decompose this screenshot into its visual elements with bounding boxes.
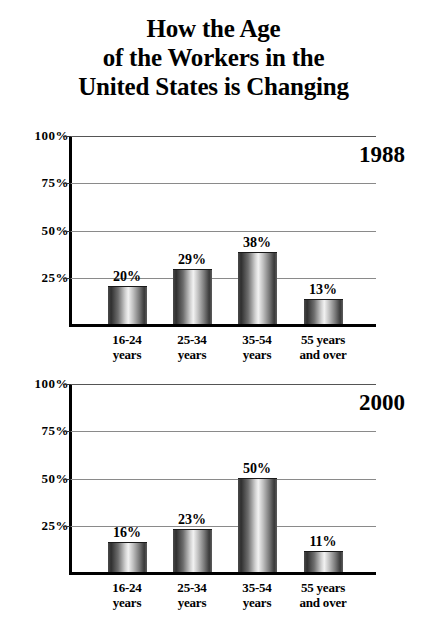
x-axis-category-label: 16-24years [112,580,141,610]
bar-value-label: 20% [113,269,141,285]
bar-value-label: 29% [178,252,206,268]
bar [304,551,343,572]
x-axis-category-label-line: and over [299,595,346,610]
chart-panel-1988: 1988 100%75%50%25% 20%16-24years29%25-34… [0,128,427,360]
x-axis-category-label: 25-34years [177,580,206,610]
x-axis-category-label-line: and over [299,347,346,362]
x-axis-category-label-line: 16-24 [112,332,141,347]
x-axis-category-label-line: 35-54 [242,332,271,347]
x-axis-category-label: 35-54years [242,332,271,362]
plot-area-2000: 100%75%50%25% 16%16-24years23%25-34years… [71,384,376,572]
gridline [71,431,376,432]
x-axis-category-label-line: years [177,347,206,362]
y-axis-tick [63,384,71,385]
x-axis-category-label: 55 yearsand over [299,332,346,362]
bar-value-label: 13% [309,282,337,298]
bar-value-label: 50% [243,461,271,477]
bar [173,529,212,572]
y-axis-tick [63,183,71,184]
gridline [71,231,376,232]
y-axis-tick-labels: 100%75%50%25% [12,384,69,573]
x-axis-category-label: 16-24years [112,332,141,362]
y-axis-tick [63,231,71,232]
bar-value-label: 11% [309,534,336,550]
x-axis-category-label-line: 35-54 [242,580,271,595]
gridline [71,384,376,385]
x-axis-category-label-line: 16-24 [112,580,141,595]
x-axis-category-label-line: years [112,595,141,610]
bar [238,252,277,324]
page-title-line-1: How the Age [0,14,427,43]
x-axis-category-label-line: years [242,347,271,362]
x-axis-category-label-line: 25-34 [177,580,206,595]
x-axis-category-label-line: years [242,595,271,610]
bar [108,286,147,324]
x-axis-category-label-line: 25-34 [177,332,206,347]
bar [173,269,212,324]
x-axis-category-label-line: 55 years [299,580,346,595]
x-axis-category-label-line: years [112,347,141,362]
bar-value-label: 23% [178,512,206,528]
x-axis-category-label-line: years [177,595,206,610]
y-axis-tick-labels: 100%75%50%25% [12,136,69,325]
gridline [71,479,376,480]
x-axis-line [69,572,376,575]
bar-value-label: 38% [243,235,271,251]
x-axis-category-label: 25-34years [177,332,206,362]
plot-area-1988: 100%75%50%25% 20%16-24years29%25-34years… [71,136,376,324]
bar [108,542,147,572]
chart-panel-2000: 2000 100%75%50%25% 16%16-24years23%25-34… [0,376,427,620]
x-axis-category-label: 35-54years [242,580,271,610]
y-axis-tick [63,479,71,480]
y-axis-tick [63,136,71,137]
x-axis-category-label-line: 55 years [299,332,346,347]
y-axis-tick [63,431,71,432]
gridline [71,136,376,137]
x-axis-category-label: 55 yearsand over [299,580,346,610]
y-axis-tick [63,526,71,527]
bar-value-label: 16% [113,525,141,541]
bar [238,478,277,573]
page-title-line-3: United States is Changing [0,72,427,101]
bar [304,299,343,324]
gridline [71,183,376,184]
x-axis-line [69,324,376,327]
y-axis-tick [63,278,71,279]
page-title: How the Age of the Workers in the United… [0,14,427,101]
page-title-line-2: of the Workers in the [0,43,427,72]
